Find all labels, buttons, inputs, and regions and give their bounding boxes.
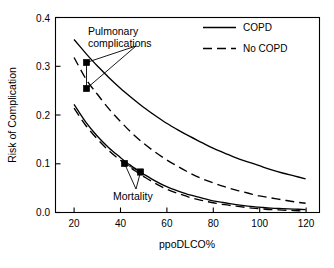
x-tick-label-3: 80 <box>208 218 220 229</box>
pulmonary-annotation-line2: complications <box>88 37 152 49</box>
mortality-leader-lines <box>125 164 141 190</box>
x-tick-label-1: 40 <box>115 218 127 229</box>
series-group <box>74 39 306 211</box>
x-tick-label-0: 20 <box>69 218 81 229</box>
pulmonary-leader-lines <box>87 46 137 89</box>
y-axis-ticks <box>56 18 61 213</box>
y-tick-label-0: 0.0 <box>36 207 50 218</box>
marker-pulmonary-no-copd <box>83 85 89 91</box>
y-tick-label-4: 0.4 <box>36 13 50 24</box>
y-tick-label-2: 0.2 <box>36 110 50 121</box>
x-axis-title: ppoDLCO% <box>159 238 215 250</box>
series-line-mortality-copd <box>74 104 306 209</box>
x-tick-label-4: 100 <box>251 218 268 229</box>
x-tick-label-5: 120 <box>298 218 315 229</box>
legend: COPD No COPD <box>203 22 287 54</box>
figure-container: 0.0 0.1 0.2 0.3 0.4 20 40 60 80 100 120 … <box>0 0 334 268</box>
legend-label-no-copd: No COPD <box>243 43 287 54</box>
mortality-annotation: Mortality <box>113 190 153 202</box>
y-tick-label-3: 0.3 <box>36 61 50 72</box>
marker-mortality-copd <box>121 160 127 166</box>
marker-pulmonary-copd <box>83 59 89 65</box>
pulmonary-annotation-line1: Pulmonary <box>88 25 139 37</box>
data-markers <box>83 59 143 175</box>
series-line-pulmonary-no-copd <box>74 57 306 203</box>
risk-of-complication-chart: 0.0 0.1 0.2 0.3 0.4 20 40 60 80 100 120 … <box>0 0 334 268</box>
marker-mortality-no-copd <box>137 169 143 175</box>
x-tick-label-2: 60 <box>161 218 173 229</box>
y-axis-title: Risk of Complication <box>6 67 18 163</box>
legend-label-copd: COPD <box>243 22 272 33</box>
y-tick-label-1: 0.1 <box>36 158 50 169</box>
